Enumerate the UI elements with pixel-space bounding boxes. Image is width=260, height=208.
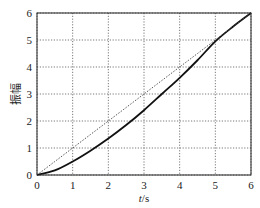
x-tick-label: 2 [106, 179, 112, 191]
x-axis-label: t/s [139, 192, 149, 204]
y-tick-label: 2 [27, 115, 33, 127]
line-chart: 0123456 0123456 t/s 振幅 [0, 0, 260, 208]
y-tick-label: 1 [27, 142, 33, 154]
x-tick-label: 1 [70, 179, 76, 191]
x-tick-label: 6 [248, 179, 254, 191]
y-tick-label: 6 [27, 7, 33, 19]
y-tick-label: 0 [27, 169, 33, 181]
x-tick-label: 5 [213, 179, 219, 191]
x-axis-ticks: 0123456 [34, 179, 254, 191]
x-tick-label: 0 [34, 179, 40, 191]
y-axis-label: 振幅 [9, 83, 22, 105]
y-tick-label: 3 [27, 88, 33, 100]
y-tick-label: 5 [27, 34, 33, 46]
y-tick-label: 4 [27, 61, 33, 73]
x-tick-label: 4 [177, 179, 183, 191]
x-tick-label: 3 [141, 179, 147, 191]
y-axis-ticks: 0123456 [27, 7, 33, 181]
